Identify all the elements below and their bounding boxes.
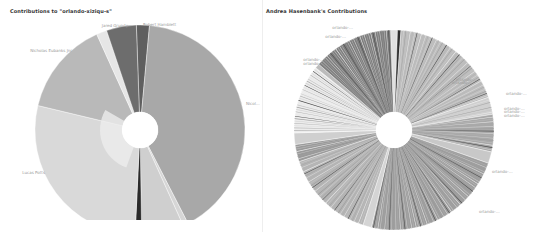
right-donut-chart[interactable]: orlando-…orlando-…orlando-…orlando-…orla… — [263, 0, 537, 232]
left-chart-panel: Contributions to "orlando-xiziqu-s" Robe… — [0, 0, 262, 232]
slice-label: Nicholas Eubanks Jnr — [30, 48, 72, 53]
donut-hole — [122, 112, 158, 148]
left-donut-chart[interactable]: Robert HamblettJared GrundyNicholas Euba… — [0, 0, 262, 232]
slice-label: orlando-… — [504, 113, 525, 118]
slice-label: orlando-… — [332, 25, 353, 30]
slice-label: orlando-… — [456, 77, 477, 82]
slice-label: orlando-… — [479, 209, 500, 214]
slice-label: orlando-… — [325, 34, 346, 39]
slice-label: orlando-… — [303, 61, 324, 66]
slice-label: Lucas Potts — [22, 170, 45, 175]
slice-label: Robert Hamblett — [143, 22, 177, 27]
donut-hole — [376, 112, 412, 148]
right-chart-panel: Andrea Hasenbank's Contributions orlando… — [262, 0, 537, 232]
slice-label: orlando-… — [492, 169, 513, 174]
slice-label: orlando-… — [506, 91, 527, 96]
slice-label: Nicol… — [246, 101, 260, 106]
chart-clip-mask — [0, 220, 262, 232]
slice-label: Jared Grundy — [101, 23, 129, 28]
